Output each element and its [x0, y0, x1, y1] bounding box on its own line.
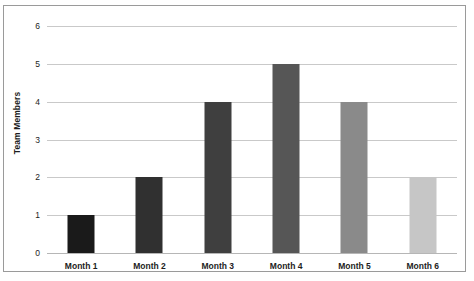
y-axis-tick-label: 2 — [35, 172, 40, 182]
x-axis-tick-label: Month 5 — [338, 261, 371, 271]
bar — [341, 102, 368, 253]
bar — [136, 177, 163, 253]
x-axis-tick-label: Month 1 — [65, 261, 98, 271]
bar-series: Month 1Month 2Month 3Month 4Month 5Month… — [47, 26, 457, 253]
bar — [68, 215, 95, 253]
y-axis-tick-label: 3 — [35, 135, 40, 145]
y-axis-title: Team Members — [12, 63, 22, 183]
plot-area: 0123456 Month 1Month 2Month 3Month 4Mont… — [47, 26, 457, 253]
bar-group: Month 5 — [320, 26, 388, 253]
x-axis-tick-label: Month 2 — [133, 261, 166, 271]
bar-group: Month 6 — [389, 26, 457, 253]
x-axis-tick-label: Month 3 — [202, 261, 235, 271]
chart-figure: Team Members 0123456 Month 1Month 2Month… — [3, 5, 466, 272]
bar — [409, 177, 436, 253]
bar-group: Month 3 — [184, 26, 252, 253]
y-axis-tick-label: 6 — [35, 21, 40, 31]
x-axis-tick-label: Month 4 — [270, 261, 303, 271]
x-axis-tick-label: Month 6 — [407, 261, 440, 271]
bar-group: Month 4 — [252, 26, 320, 253]
bar-group: Month 1 — [47, 26, 115, 253]
y-axis-tick-label: 4 — [35, 97, 40, 107]
bar-group: Month 2 — [115, 26, 183, 253]
y-axis-tick-label: 5 — [35, 59, 40, 69]
bar — [273, 64, 300, 253]
y-axis-tick-label: 0 — [35, 248, 40, 258]
y-axis-tick-label: 1 — [35, 210, 40, 220]
bar — [204, 102, 231, 253]
x-axis-line: 0 — [47, 253, 457, 254]
